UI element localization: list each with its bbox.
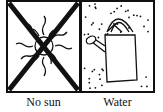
sun-illustration <box>6 0 81 93</box>
water-drop <box>147 31 149 33</box>
water-drop <box>91 24 93 26</box>
cross-out-icon <box>9 3 78 90</box>
water-panel <box>80 0 155 93</box>
water-drop <box>136 15 138 17</box>
caption-water: Water <box>80 94 155 110</box>
water-drop <box>88 82 90 84</box>
water-drop <box>101 68 103 70</box>
water-drop <box>99 28 101 30</box>
water-drop <box>87 33 89 35</box>
water-drop <box>101 84 103 86</box>
water-drop <box>145 76 147 78</box>
water-drop <box>92 71 94 73</box>
water-drop <box>92 22 94 24</box>
water-drop <box>120 5 122 7</box>
water-drop <box>113 11 115 13</box>
water-drop <box>85 16 87 18</box>
water-drop <box>146 86 148 88</box>
water-drop <box>143 26 145 28</box>
water-drop <box>147 19 149 21</box>
water-drop <box>133 14 135 16</box>
no-sun-panel <box>6 0 81 93</box>
water-drop <box>125 10 127 12</box>
water-drop <box>127 10 129 12</box>
water-drop <box>128 17 130 19</box>
water-drop <box>88 78 90 80</box>
water-drop <box>110 12 112 14</box>
water-drop <box>93 69 95 71</box>
water-drop <box>84 67 86 69</box>
water-drop <box>94 6 96 8</box>
water-drop <box>99 78 101 80</box>
water-drop <box>99 74 101 76</box>
water-drop <box>95 87 97 89</box>
water-drop <box>84 34 86 36</box>
caption-no-sun: No sun <box>6 94 81 110</box>
watering-can-illustration <box>80 0 155 93</box>
water-drop <box>98 37 100 39</box>
water-drop <box>94 3 96 5</box>
water-drop <box>89 5 91 7</box>
water-drop <box>89 87 91 89</box>
water-drop <box>141 85 143 87</box>
water-drop <box>116 7 118 9</box>
water-drop <box>101 23 103 25</box>
water-drop <box>140 16 142 18</box>
